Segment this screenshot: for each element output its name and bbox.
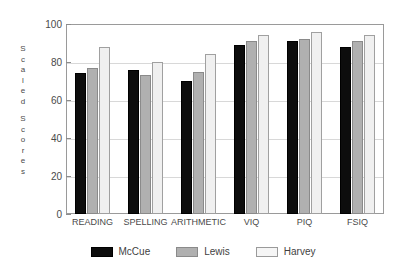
y-axis-tick-label: 60: [32, 95, 62, 106]
bar-group: [172, 24, 225, 214]
bar-group: [66, 24, 119, 214]
bar-lewis-reading: [87, 68, 99, 214]
bar-lewis-fsiq: [352, 41, 364, 214]
bar-harvey-fsiq: [364, 35, 376, 214]
bar-group: [119, 24, 172, 214]
bar-lewis-viq: [246, 41, 258, 214]
bar-harvey-piq: [311, 32, 323, 214]
legend-item-harvey[interactable]: Harvey: [256, 246, 316, 257]
y-axis-tick-label: 20: [32, 171, 62, 182]
legend-label-mccue: McCue: [119, 246, 151, 257]
y-axis-tick-labels: 020406080100: [28, 24, 62, 214]
y-axis-tick-label: 100: [32, 19, 62, 30]
bar-chart: ScaledScores 020406080100 READINGSPELLIN…: [0, 0, 406, 278]
bar-harvey-viq: [258, 35, 270, 214]
y-axis-tick-label: 80: [32, 57, 62, 68]
bar-harvey-spelling: [152, 62, 164, 214]
y-axis-tick-mark: [66, 214, 71, 215]
bar-group: [278, 24, 331, 214]
legend-label-lewis: Lewis: [204, 246, 230, 257]
x-axis-tick-label-arithmetic: ARITHMETIC: [171, 217, 226, 227]
legend-swatch-harvey: [256, 247, 278, 257]
bar-harvey-reading: [99, 47, 111, 214]
bar-harvey-arithmetic: [205, 54, 217, 214]
y-axis-tick-label: 0: [32, 209, 62, 220]
bar-mccue-arithmetic: [181, 81, 193, 214]
bar-lewis-spelling: [140, 75, 152, 214]
x-axis-tick-label-fsiq: FSIQ: [347, 217, 368, 227]
bars-layer: [66, 24, 384, 214]
y-axis-tick-mark: [66, 100, 71, 101]
legend-label-harvey: Harvey: [284, 246, 316, 257]
y-axis-tick-mark: [66, 62, 71, 63]
x-axis-tick-label-piq: PIQ: [297, 217, 313, 227]
x-axis-tick-labels: READINGSPELLINGARITHMETICVIQPIQFSIQ: [66, 217, 384, 231]
bar-group: [225, 24, 278, 214]
y-axis-tick-mark: [66, 24, 71, 25]
y-axis-tick-label: 40: [32, 133, 62, 144]
bar-mccue-viq: [234, 45, 246, 214]
bar-mccue-fsiq: [340, 47, 352, 214]
bar-mccue-reading: [75, 73, 87, 214]
legend-item-lewis[interactable]: Lewis: [176, 246, 230, 257]
y-axis-tick-mark: [66, 138, 71, 139]
chart-legend: McCueLewisHarvey: [0, 246, 406, 257]
bar-lewis-piq: [299, 39, 311, 214]
bar-group: [331, 24, 384, 214]
bar-lewis-arithmetic: [193, 72, 205, 215]
y-axis-tick-mark: [66, 176, 71, 177]
x-axis-tick-label-reading: READING: [72, 217, 113, 227]
bar-mccue-spelling: [128, 70, 140, 214]
legend-item-mccue[interactable]: McCue: [91, 246, 151, 257]
bar-mccue-piq: [287, 41, 299, 214]
x-axis-tick-label-spelling: SPELLING: [123, 217, 167, 227]
legend-swatch-lewis: [176, 247, 198, 257]
legend-swatch-mccue: [91, 247, 113, 257]
x-axis-tick-label-viq: VIQ: [244, 217, 260, 227]
